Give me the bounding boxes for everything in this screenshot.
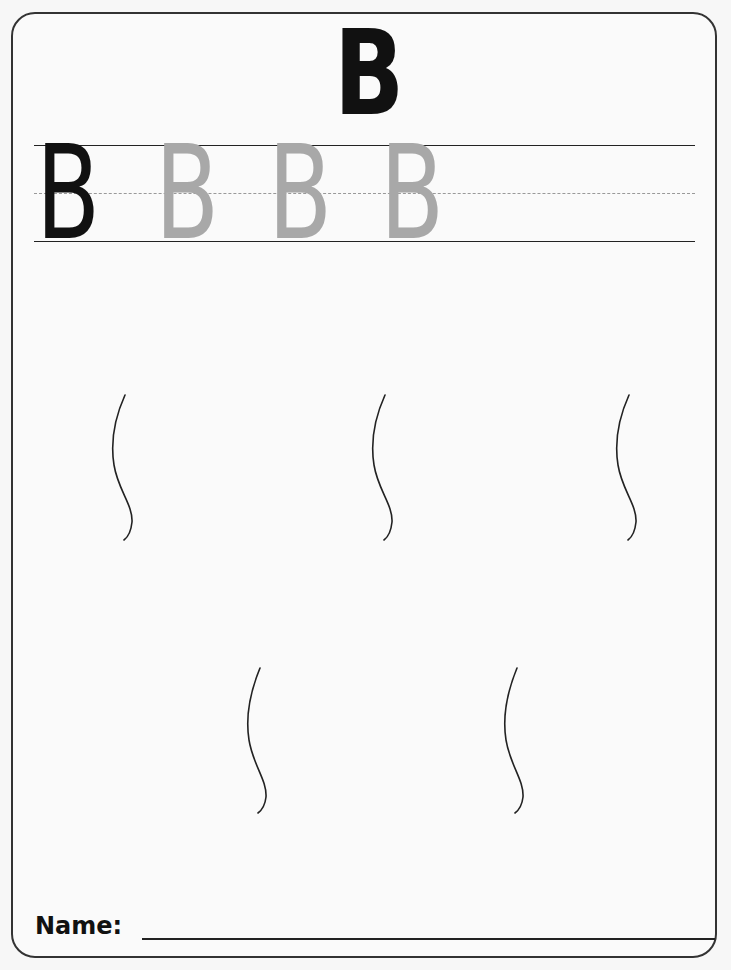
name-label: Name:: [35, 912, 122, 940]
wavy-tracing-paths: [0, 0, 731, 970]
name-field-line[interactable]: [142, 938, 715, 940]
wavy-path-3[interactable]: [617, 395, 636, 540]
wavy-path-2[interactable]: [373, 395, 392, 540]
wavy-path-4[interactable]: [248, 668, 266, 813]
wavy-path-5[interactable]: [505, 668, 523, 813]
wavy-path-1[interactable]: [113, 395, 132, 540]
